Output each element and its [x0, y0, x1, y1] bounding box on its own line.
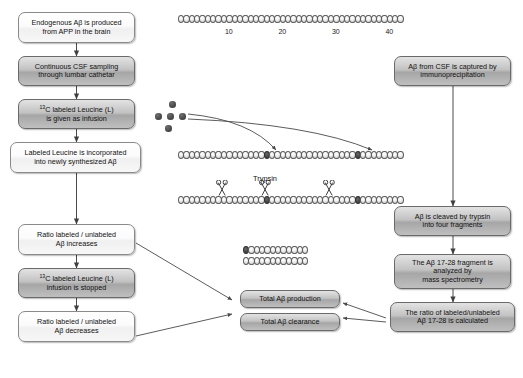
residue-tick-20: 20 [270, 28, 294, 35]
peptide-chain-labeled [178, 151, 403, 160]
peptide-chain-cleavage [178, 196, 403, 205]
box-csf-sampling-label: Continuous CSF samplingthrough lumbar ca… [35, 63, 119, 80]
peptide-fragment-unlabeled [243, 257, 307, 266]
box-total-clearance[interactable]: Total Aβ clearance [240, 313, 340, 331]
box-mass-spectrometry-label: The Aβ 17-28 fragment isanalyzed bymass … [412, 259, 493, 284]
box-mass-spectrometry[interactable]: The Aβ 17-28 fragment isanalyzed bymass … [394, 254, 511, 289]
box-ratio-decreases[interactable]: Ratio labeled / unlabeledAβ decreases [18, 311, 135, 342]
box-endogenous[interactable]: Endogenous Aβ is producedfrom APP in the… [18, 12, 135, 43]
box-total-clearance-label: Total Aβ clearance [261, 318, 320, 326]
residue [397, 151, 403, 159]
box-immunoprecipitation-label: Aβ from CSF is captured byimmunoprecipit… [408, 63, 496, 80]
box-endogenous-label: Endogenous Aβ is producedfrom APP in the… [31, 19, 121, 36]
residue [397, 15, 403, 23]
box-ratio-decreases-label: Ratio labeled / unlabeledAβ decreases [37, 318, 116, 335]
box-total-production[interactable]: Total Aβ production [240, 290, 340, 308]
labeled-leucine-dot [169, 101, 176, 108]
box-ratio-calculated-label: The ratio of labeled/unlabeledAβ 17-28 i… [405, 309, 500, 326]
residue-tick-40: 40 [377, 28, 401, 35]
box-trypsin-cleavage[interactable]: Aβ is cleaved by trypsininto four fragme… [394, 206, 511, 236]
peptide-fragment-labeled [243, 246, 307, 255]
scissors-icon [323, 180, 336, 197]
box-ratio-increases[interactable]: Ratio labeled / unlabeledAβ increases [18, 224, 135, 255]
labeled-leucine-dot [179, 113, 186, 120]
labeled-leucine-dot [165, 125, 172, 132]
box-leucine-infusion[interactable]: 13C labeled Leucine (L)is given as infus… [18, 99, 135, 129]
box-ratio-calculated[interactable]: The ratio of labeled/unlabeledAβ 17-28 i… [390, 302, 515, 332]
box-incorporated-label: Labeled Leucine is incorporatedinto newl… [25, 149, 127, 166]
box-infusion-stopped[interactable]: 13C labeled Leucine (L)infusion is stopp… [18, 268, 135, 298]
box-csf-sampling[interactable]: Continuous CSF samplingthrough lumbar ca… [18, 56, 135, 86]
labeled-leucine-dot [167, 113, 174, 120]
residue-tick-30: 30 [324, 28, 348, 35]
residue [397, 196, 403, 204]
labeled-leucine-dot [155, 113, 162, 120]
scissors-icon [216, 180, 229, 197]
box-trypsin-cleavage-label: Aβ is cleaved by trypsininto four fragme… [415, 213, 491, 230]
box-immunoprecipitation[interactable]: Aβ from CSF is captured byimmunoprecipit… [394, 56, 511, 86]
box-total-production-label: Total Aβ production [259, 295, 320, 303]
box-incorporated[interactable]: Labeled Leucine is incorporatedinto newl… [10, 142, 141, 173]
box-ratio-increases-label: Ratio labeled / unlabeledAβ increases [37, 231, 116, 248]
residue [302, 246, 308, 254]
box-leucine-infusion-label: 13C labeled Leucine (L)is given as infus… [39, 104, 113, 123]
diagram-canvas: Endogenous Aβ is producedfrom APP in the… [0, 0, 523, 378]
box-infusion-stopped-label: 13C labeled Leucine (L)infusion is stopp… [39, 273, 113, 292]
trypsin-label: Trypsin [253, 174, 277, 183]
peptide-chain-top [178, 15, 403, 24]
residue-tick-10: 10 [217, 28, 241, 35]
residue [302, 257, 308, 265]
